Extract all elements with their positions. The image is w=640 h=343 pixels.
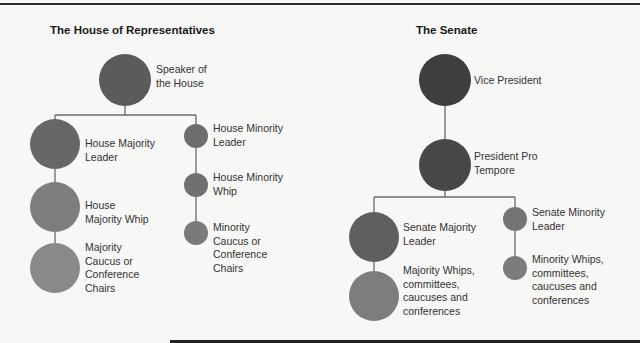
minority-caucus-node-icon [184, 221, 208, 245]
senate-title: The Senate [416, 24, 477, 36]
house-minority-whip-node-icon [184, 173, 208, 197]
senate-majority-leader-node-icon [349, 212, 399, 262]
majority-caucus-label: Majority Caucus or Conference Chairs [85, 241, 139, 295]
senate-minority-leader-node-icon [503, 207, 527, 231]
senate-majority-leader-label: Senate Majority Leader [403, 221, 476, 248]
senate-minority-whips-node-icon [503, 256, 527, 280]
house-minority-leader-node-icon [184, 124, 208, 148]
senate-minority-whips-label: Minority Whips, committees, caucuses and… [532, 253, 604, 307]
president-pro-tempore-node-icon [419, 139, 471, 191]
senate-minority-leader-label: Senate Minority Leader [532, 206, 605, 233]
majority-whips-node-icon [349, 271, 399, 321]
house-majority-whip-node-icon [30, 182, 80, 232]
house-majority-whip-label: House Majority Whip [85, 199, 149, 226]
vice-president-node-icon [419, 54, 471, 106]
house-title: The House of Representatives [50, 24, 215, 36]
house-majority-leader-node-icon [30, 119, 80, 169]
house-majority-leader-label: House Majority Leader [85, 137, 155, 164]
president-pro-tempore-label: President Pro Tempore [474, 150, 538, 177]
majority-caucus-node-icon [30, 243, 80, 293]
house-minority-whip-label: House Minority Whip [213, 171, 283, 198]
minority-caucus-label: Minority Caucus or Conference Chairs [213, 221, 267, 275]
speaker-node-icon [99, 54, 151, 106]
majority-whips-label: Majority Whips, committees, caucuses and… [403, 264, 475, 318]
vice-president-label: Vice President [474, 74, 542, 88]
house-minority-leader-label: House Minority Leader [213, 122, 283, 149]
speaker-label: Speaker of the House [156, 63, 207, 90]
